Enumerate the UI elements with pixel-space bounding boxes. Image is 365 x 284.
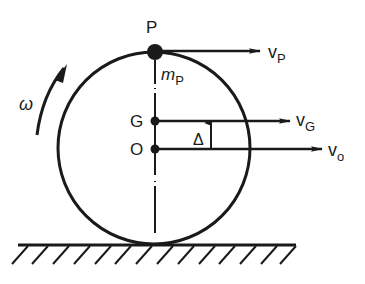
label-omega: ω — [19, 94, 33, 114]
label-delta: Δ — [193, 131, 204, 148]
label-mass-p: mP — [161, 65, 184, 88]
label-g: G — [130, 112, 143, 131]
label-velocity-p: vP — [268, 42, 286, 66]
label-p: P — [146, 18, 157, 37]
rolling-wheel-diagram: P mP G O Δ ω vP vG vo — [0, 0, 365, 284]
ground-hatching — [12, 246, 296, 264]
label-o: O — [130, 140, 143, 159]
angular-velocity-arrowhead-icon — [55, 64, 67, 83]
label-velocity-o: vo — [328, 140, 344, 164]
label-velocity-g: vG — [296, 110, 315, 134]
